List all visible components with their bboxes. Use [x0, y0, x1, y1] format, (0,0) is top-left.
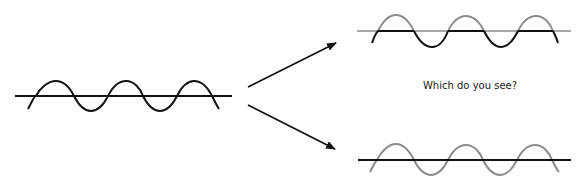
top-option-black-troughs [372, 31, 558, 47]
original-figure [15, 81, 232, 111]
question-caption: Which do you see? [410, 80, 530, 91]
arrow-to-bottom-option [248, 105, 335, 149]
illusion-diagram [0, 0, 585, 190]
bottom-option-figure [358, 144, 571, 175]
top-option-figure [357, 15, 571, 47]
arrow-to-top-option [248, 43, 336, 87]
top-option-gray-crests [378, 15, 553, 31]
